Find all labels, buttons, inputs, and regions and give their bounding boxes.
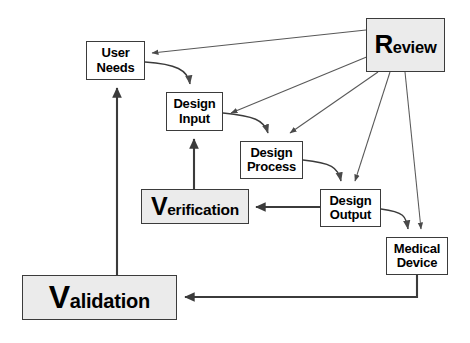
node-design-input[interactable]: Design Input	[166, 92, 223, 131]
node-verification-rest: erification	[167, 202, 239, 219]
node-design-process[interactable]: Design Process	[240, 141, 303, 179]
node-review-cap: R	[374, 33, 392, 56]
edge-review-to-design-process	[290, 72, 378, 133]
node-medical-device-line2: Device	[394, 256, 440, 270]
node-design-input-line2: Input	[173, 112, 215, 126]
node-medical-device-line1: Medical	[394, 242, 440, 256]
node-design-input-line1: Design	[173, 97, 215, 111]
edge-design-process-to-design-output	[303, 160, 341, 181]
node-verification[interactable]: V erification	[141, 189, 249, 224]
node-verification-cap: V	[151, 195, 167, 218]
edge-review-to-user-needs	[152, 30, 366, 53]
node-validation[interactable]: V alidation	[22, 275, 177, 320]
node-review-rest: eview	[393, 39, 437, 57]
edge-review-to-design-input	[231, 56, 369, 113]
node-design-process-line1: Design	[247, 146, 296, 160]
node-validation-rest: alidation	[70, 291, 150, 313]
node-validation-cap: V	[49, 283, 70, 312]
edge-review-to-design-output	[355, 72, 390, 181]
node-review[interactable]: R eview	[366, 18, 445, 72]
node-design-output-line2: Output	[329, 208, 371, 222]
edge-user-needs-to-design-input	[145, 62, 190, 84]
design-control-diagram: User Needs Design Input Design Process D…	[0, 0, 470, 343]
node-design-process-line2: Process	[247, 160, 296, 174]
edge-design-output-to-medical-device	[381, 209, 408, 229]
edge-review-to-medical-device	[405, 72, 421, 229]
node-user-needs-line2: Needs	[96, 61, 134, 75]
edge-design-input-to-design-process	[223, 113, 268, 133]
node-design-output-line1: Design	[329, 194, 371, 208]
edge-medical-device-to-validation	[185, 275, 417, 297]
node-design-output[interactable]: Design Output	[320, 189, 381, 227]
node-user-needs[interactable]: User Needs	[86, 41, 145, 80]
node-user-needs-line1: User	[96, 46, 134, 60]
node-medical-device[interactable]: Medical Device	[386, 237, 448, 275]
